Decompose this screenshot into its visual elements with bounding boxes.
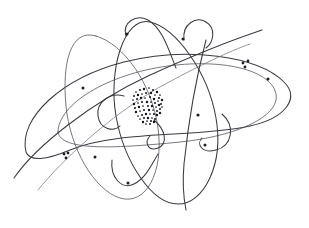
nucleus-dot [148,87,150,89]
nucleus-dot [151,105,153,107]
nucleus-dot [150,92,152,94]
nucleus-dot [145,113,147,115]
nucleus-dot [143,88,145,90]
nucleus-dot [155,106,157,108]
electron-upper-right-a [242,62,245,65]
nucleus-dot [145,92,147,94]
nucleus-dot [142,105,144,107]
nucleus-dot [137,102,139,104]
nucleus-dot [146,101,148,103]
nucleus-dot [140,97,142,99]
nucleus-dot [133,103,135,105]
nucleus-dot [154,94,156,96]
electron-upper-right-b [247,60,250,63]
nucleus-dot [153,121,155,123]
nucleus-dot [154,102,156,104]
atom-illustration: Hand-drawn atom orbital sketch Ink sketc… [0,0,309,228]
nucleus-dot [152,89,154,91]
nucleus-dot [156,110,158,112]
nucleus-dot [148,109,150,111]
nucleus-dot [132,99,134,101]
nucleus-dot [159,112,161,114]
electron-left-mid [94,156,97,159]
nucleus-dot [153,98,155,100]
nucleus-dot [158,104,160,106]
nucleus-dot [141,101,143,103]
nucleus-dot [143,117,145,119]
electron-left-upper [82,87,85,90]
nucleus-dot [152,109,154,111]
nucleus-dot [160,103,162,105]
nucleus-dot [146,120,148,122]
nucleus-dot [141,114,143,116]
nucleus-dot [158,97,160,99]
nucleus-dot [139,89,141,91]
nucleus-dot [159,94,161,96]
electron-bottom [127,182,130,185]
nucleus-dot [154,118,156,120]
electron-top-right [182,38,185,41]
nucleus-dot [134,107,136,109]
electron-upper-right-c [244,66,247,69]
nucleus-dot [137,94,139,96]
electron-lower-left-c [65,157,68,160]
nucleus-dot [139,110,141,112]
nucleus-dot [139,118,141,120]
nucleus-dot [151,117,153,119]
nucleus-dot [156,91,158,93]
nucleus-dot [150,101,152,103]
electron-lower-left-b [67,152,70,155]
nucleus-dot [156,114,158,116]
nucleus-dot [136,98,138,100]
electron-mid-right [196,113,199,116]
nucleus-dot [147,117,149,119]
nucleus-dot [144,97,146,99]
nucleus-dot [161,99,163,101]
nucleus-dot [138,106,140,108]
nucleus-dot [135,111,137,113]
electron-right-edge [267,78,270,81]
nucleus-dot [153,113,155,115]
nucleus-dot [145,123,147,125]
nucleus-dot [141,93,143,95]
nucleus-dot [135,91,137,93]
electron-top-left [126,33,129,36]
nucleus-dot [159,108,161,110]
nucleus-dot [147,105,149,107]
nucleus-dot [149,123,151,125]
nucleus-dot [150,120,152,122]
nucleus-dot [149,113,151,115]
electron-lower-left-a [63,153,66,156]
nucleus-dot [133,95,135,97]
electron-lower-right [204,144,207,147]
nucleus-dot [161,106,163,108]
atom-sketch-canvas: Hand-drawn atom orbital sketch Ink sketc… [0,0,309,228]
nucleus-dot [137,115,139,117]
nucleus-dot [149,96,151,98]
nucleus-dot [157,100,159,102]
nucleus-dot [142,121,144,123]
nucleus-dot [143,109,145,111]
